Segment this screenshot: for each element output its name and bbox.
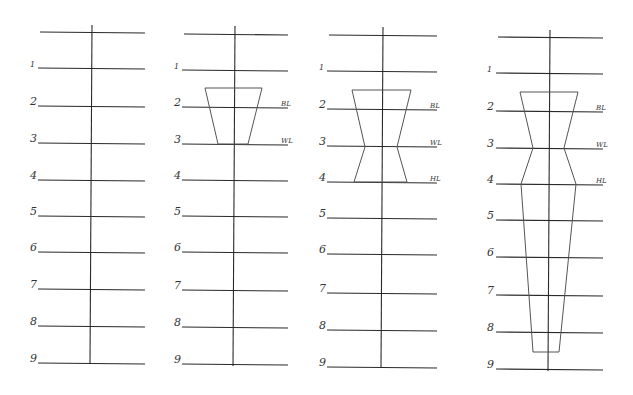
- marker-wl: WL: [430, 139, 442, 147]
- row-label-7: 7: [487, 284, 494, 297]
- row-label-1: 1: [30, 60, 35, 69]
- marker-wl: WL: [281, 137, 293, 145]
- torso-outline: [205, 88, 262, 144]
- row-label-4: 4: [486, 173, 494, 186]
- row-label-9: 9: [319, 356, 326, 369]
- center-line: [381, 27, 383, 368]
- row-line-9: [327, 367, 437, 368]
- row-line-1: [327, 71, 437, 72]
- row-label-2: 2: [318, 98, 326, 111]
- row-line-7: [182, 290, 288, 291]
- row-line-5: [496, 220, 603, 221]
- panel-step-4: 123456789BLWLHL: [486, 30, 608, 371]
- marker-wl: WL: [596, 141, 608, 149]
- row-label-4: 4: [173, 169, 181, 182]
- row-line-5: [182, 216, 288, 217]
- row-label-6: 6: [487, 246, 494, 259]
- row-label-3: 3: [487, 137, 494, 150]
- row-line-9: [38, 363, 145, 364]
- row-label-1: 1: [174, 62, 179, 71]
- row-line-8: [327, 330, 437, 331]
- row-label-9: 9: [30, 352, 37, 365]
- row-line-9: [182, 364, 288, 365]
- row-line-6: [182, 252, 288, 253]
- center-line: [233, 26, 235, 366]
- marker-hl: HL: [595, 177, 607, 185]
- row-label-9: 9: [487, 358, 494, 371]
- row-label-5: 5: [487, 209, 494, 222]
- row-line-6: [38, 252, 145, 253]
- row-label-7: 7: [174, 279, 181, 292]
- marker-bl: BL: [280, 100, 291, 108]
- row-label-3: 3: [30, 132, 37, 145]
- row-label-8: 8: [30, 315, 37, 328]
- row-label-6: 6: [319, 243, 326, 256]
- marker-hl: HL: [429, 175, 441, 183]
- panel-step-2: 123456789BLWL: [173, 26, 293, 366]
- row-label-2: 2: [29, 95, 37, 108]
- row-label-1: 1: [319, 63, 324, 72]
- row-label-1: 1: [487, 65, 492, 74]
- row-label-7: 7: [30, 278, 37, 291]
- row-line-6: [496, 257, 603, 258]
- row-label-6: 6: [30, 241, 37, 254]
- row-line-5: [38, 216, 145, 217]
- row-label-8: 8: [487, 321, 494, 334]
- row-line-9: [496, 369, 603, 370]
- row-label-5: 5: [174, 205, 181, 218]
- panel-step-1: 123456789: [29, 25, 145, 365]
- head-line: [184, 34, 288, 35]
- row-line-7: [496, 295, 603, 296]
- row-label-2: 2: [173, 96, 181, 109]
- row-label-2: 2: [486, 100, 494, 113]
- row-label-4: 4: [318, 171, 326, 184]
- row-label-3: 3: [174, 133, 181, 146]
- marker-bl: BL: [595, 104, 606, 112]
- center-line: [90, 25, 92, 364]
- center-line: [548, 30, 550, 371]
- row-line-7: [327, 293, 437, 294]
- row-line-8: [182, 327, 288, 328]
- row-line-8: [38, 326, 145, 327]
- row-label-6: 6: [174, 241, 181, 254]
- row-label-4: 4: [29, 169, 37, 182]
- torso-outline: [352, 90, 411, 182]
- row-line-7: [38, 289, 145, 290]
- row-label-9: 9: [174, 353, 181, 366]
- panel-step-3: 123456789BLWLHL: [318, 27, 442, 369]
- marker-bl: BL: [429, 102, 440, 110]
- row-label-5: 5: [30, 205, 37, 218]
- row-label-5: 5: [319, 207, 326, 220]
- row-line-8: [496, 332, 603, 333]
- row-label-8: 8: [319, 319, 326, 332]
- row-label-8: 8: [174, 316, 181, 329]
- row-label-3: 3: [319, 135, 326, 148]
- croquis-diagram: 123456789123456789BLWL123456789BLWLHL123…: [0, 0, 633, 395]
- row-label-7: 7: [319, 282, 326, 295]
- row-line-4: [182, 180, 288, 181]
